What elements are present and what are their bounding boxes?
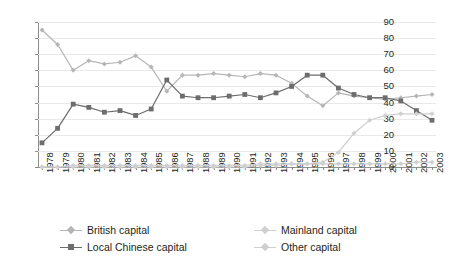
- data-point: [414, 160, 419, 165]
- plot-area: 0102030405060708090 19781979198019811982…: [38, 22, 436, 167]
- x-tick-mark: [401, 167, 402, 170]
- data-point: [227, 73, 232, 78]
- data-point: [242, 92, 247, 97]
- data-point: [305, 161, 310, 166]
- data-point: [305, 73, 310, 78]
- data-point: [383, 161, 388, 166]
- data-point: [430, 92, 435, 97]
- x-tick-mark: [354, 167, 355, 170]
- data-point: [55, 126, 60, 131]
- data-point: [258, 95, 263, 100]
- data-point: [180, 94, 185, 99]
- chart-legend: British capitalMainland capitalLocal Chi…: [60, 224, 440, 253]
- legend-swatch-icon: [254, 225, 276, 236]
- data-point: [336, 161, 341, 166]
- x-tick-mark: [338, 167, 339, 170]
- data-point: [367, 95, 372, 100]
- x-tick-mark: [416, 167, 417, 170]
- x-tick-mark: [323, 167, 324, 170]
- data-point: [242, 74, 247, 79]
- data-point: [86, 105, 91, 110]
- legend-label: Other capital: [281, 242, 341, 253]
- data-point: [289, 84, 294, 89]
- legend-swatch-icon: [60, 242, 82, 253]
- data-point: [164, 78, 169, 83]
- legend-item-mainland-capital[interactable]: Mainland capital: [254, 224, 434, 236]
- data-point: [367, 161, 372, 166]
- series-mainland-capital: [40, 111, 435, 169]
- x-tick-mark: [370, 167, 371, 170]
- x-tick-label: 2003: [436, 152, 445, 173]
- data-point: [274, 90, 279, 95]
- data-point: [430, 111, 435, 116]
- data-point: [149, 107, 154, 112]
- x-tick-mark: [432, 167, 433, 170]
- data-point: [196, 95, 201, 100]
- legend-label: Local Chinese capital: [87, 242, 187, 253]
- data-point: [102, 61, 107, 66]
- data-point: [102, 110, 107, 115]
- x-tick-mark: [307, 167, 308, 170]
- data-point: [227, 94, 232, 99]
- data-point: [196, 73, 201, 78]
- data-point: [430, 118, 435, 123]
- data-point: [383, 113, 388, 118]
- data-point: [336, 86, 341, 91]
- data-point: [274, 73, 279, 78]
- legend-item-other-capital[interactable]: Other capital: [254, 241, 434, 253]
- data-point: [71, 102, 76, 107]
- data-point: [320, 73, 325, 78]
- series-line: [42, 162, 432, 167]
- data-point: [414, 94, 419, 99]
- data-point: [211, 71, 216, 76]
- data-point: [398, 111, 403, 116]
- data-point: [258, 71, 263, 76]
- series-british-capital: [40, 28, 435, 109]
- legend-swatch-icon: [60, 225, 82, 236]
- data-point: [289, 161, 294, 166]
- data-point: [40, 165, 45, 170]
- data-point: [398, 161, 403, 166]
- data-point: [133, 113, 138, 118]
- data-point: [118, 60, 123, 65]
- data-point: [40, 140, 45, 145]
- series-line: [42, 75, 432, 143]
- legend-swatch-icon: [254, 242, 276, 253]
- data-point: [211, 95, 216, 100]
- chart-container: 0102030405060708090 19781979198019811982…: [0, 0, 460, 262]
- y-tick-mark: [35, 167, 38, 168]
- x-tick-mark: [385, 167, 386, 170]
- data-point: [55, 165, 60, 170]
- legend-label: British capital: [87, 225, 149, 236]
- legend-label: Mainland capital: [281, 225, 357, 236]
- series-line: [42, 30, 432, 106]
- legend-item-local-chinese-capital[interactable]: Local Chinese capital: [60, 241, 230, 253]
- data-point: [430, 160, 435, 165]
- series-line: [42, 114, 432, 167]
- x-tick-mark: [292, 167, 293, 170]
- series-local-chinese-capital: [40, 73, 435, 145]
- data-point: [398, 99, 403, 104]
- data-point: [118, 108, 123, 113]
- legend-item-british-capital[interactable]: British capital: [60, 224, 230, 236]
- series-layer: [38, 22, 436, 167]
- data-point: [352, 161, 357, 166]
- data-point: [352, 92, 357, 97]
- data-point: [383, 95, 388, 100]
